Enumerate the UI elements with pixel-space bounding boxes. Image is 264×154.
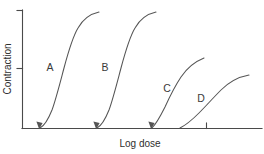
y-axis-label: Contraction: [2, 43, 13, 94]
curve-label-b: B: [101, 61, 108, 73]
curve-d-group: [180, 75, 249, 128]
curve-c-path: [152, 58, 204, 128]
axes-group: [17, 10, 262, 129]
curve-d-path: [180, 75, 249, 128]
curve-c-group: [148, 58, 204, 129]
curve-label-a: A: [46, 61, 53, 73]
dose-response-figure: A B C D Contraction Log dose: [0, 0, 264, 154]
plot-area: A B C D Contraction Log dose: [0, 0, 264, 154]
curve-label-d: D: [197, 92, 205, 104]
curve-label-c: C: [163, 82, 171, 94]
x-axis-label: Log dose: [119, 138, 161, 149]
